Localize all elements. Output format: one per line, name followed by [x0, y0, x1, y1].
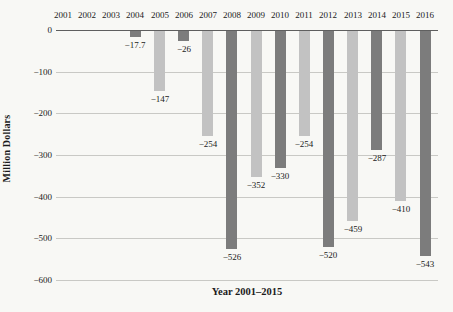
bar-2015	[395, 30, 406, 201]
bar-2011	[299, 30, 310, 136]
y-tick-label: −200	[12, 108, 52, 118]
value-label-2009: −352	[235, 180, 277, 190]
value-label-2008: −526	[211, 252, 253, 262]
value-label-2012: −520	[307, 250, 349, 260]
y-tick-label: −400	[12, 192, 52, 202]
bar-2006	[178, 30, 189, 41]
value-label-2006: −26	[163, 44, 205, 54]
bar-2014	[371, 30, 382, 150]
bar-2004	[130, 30, 141, 37]
gridline	[56, 197, 438, 198]
value-label-2013: −459	[332, 224, 374, 234]
x-axis-title: Year 2001–2015	[147, 286, 347, 297]
value-label-2004: −17.7	[114, 40, 156, 50]
y-tick-label: 0	[12, 25, 52, 35]
value-label-2005: −147	[139, 94, 181, 104]
x-tick-label-2016: 2016	[410, 10, 440, 21]
gridline	[56, 238, 438, 239]
value-label-2007: −254	[187, 139, 229, 149]
y-tick-label: −100	[12, 67, 52, 77]
value-label-2011: −254	[283, 139, 325, 149]
y-tick-label: −500	[12, 233, 52, 243]
gridline	[56, 280, 438, 281]
bar-2013	[347, 30, 358, 221]
bar-2009	[251, 30, 262, 177]
bar-2016	[420, 30, 431, 256]
y-tick-label: −300	[12, 150, 52, 160]
value-label-2015: −410	[380, 204, 422, 214]
value-label-2010: −330	[259, 171, 301, 181]
value-label-2014: −287	[356, 153, 398, 163]
bar-chart: 0−100−200−300−400−500−600200120022003200…	[0, 0, 453, 312]
value-label-2016: −543	[404, 259, 446, 269]
y-tick-label: −600	[12, 275, 52, 285]
x-axis-zero-line	[56, 30, 438, 31]
y-axis-title: Million Dollars	[1, 89, 12, 209]
